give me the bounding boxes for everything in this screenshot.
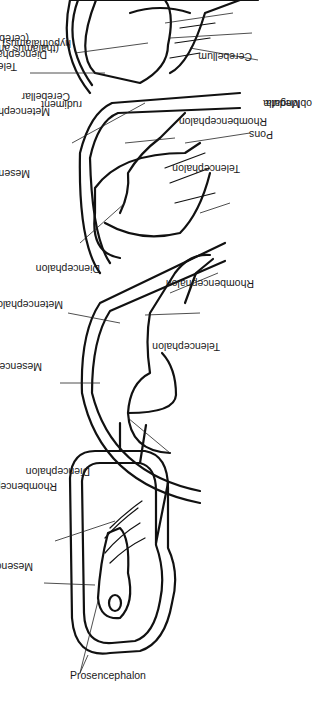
label-telencephalon-3: Telencephalon: [172, 163, 240, 175]
label-diencephalon-3: Diencephalon: [36, 263, 100, 275]
label-diencephalon-2: Diencephalon: [26, 466, 90, 478]
label-prosencephalon: Prosencephalon: [70, 669, 146, 681]
label-cerebellar-rudiment-line2: rudiment: [41, 99, 82, 111]
brain-development-diagram: Prosencephalon Mesencephalon Rhombenceph…: [0, 0, 318, 713]
label-mesencephalon-1: Mesencephalon: [0, 561, 33, 573]
stage-1-embryo-brain: [44, 423, 175, 673]
label-cerebellum: Cerebellum: [198, 51, 252, 63]
label-metencephalon-2: Metencephalon: [0, 299, 63, 311]
label-medulla-oblongata-line2: oblongata: [266, 98, 312, 110]
label-rhombencephalon-2: Rhombencephalon: [166, 278, 254, 290]
label-rhombencephalon-3: Rhombencephalon: [179, 116, 267, 128]
label-telencephalon-4-line1: Telencephalon: [0, 61, 17, 73]
label-mesencephalon-3: Mesencephalon: [0, 168, 30, 180]
label-telencephalon-2: Telencephalon: [152, 341, 220, 353]
label-rhombencephalon-1: Rhombencephalon: [0, 481, 57, 493]
label-mesencephalon-2: Mesencephalon: [0, 361, 42, 373]
label-diencephalon-4-line3: hypothalamus): [2, 38, 71, 50]
label-pons: Pons: [249, 129, 273, 141]
